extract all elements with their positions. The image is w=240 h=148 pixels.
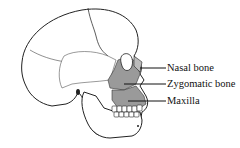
skull-diagram: Nasal bone Zygomatic bone Maxilla bbox=[0, 0, 240, 148]
label-nasal-bone: Nasal bone bbox=[167, 63, 214, 74]
label-maxilla: Maxilla bbox=[167, 96, 200, 107]
skull-illustration bbox=[0, 0, 240, 148]
teeth bbox=[112, 105, 142, 117]
label-zygomatic-bone: Zygomatic bone bbox=[167, 79, 236, 90]
